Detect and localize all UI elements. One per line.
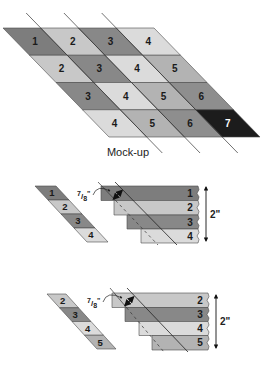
staggered-strip: [112, 293, 209, 308]
mockup-cell-number: 4: [123, 91, 129, 102]
strip-number: 2: [187, 202, 193, 213]
mockup-cell-number: 4: [146, 36, 152, 47]
mockup-caption: Mock-up: [107, 146, 149, 158]
strip-number: 3: [187, 217, 193, 228]
strip-number: 3: [73, 309, 78, 320]
height-label: 2": [220, 316, 231, 327]
strip-number: 5: [98, 337, 104, 348]
strip-number: 5: [197, 337, 203, 348]
quilt-strip-diagram: 1234234534564567 Mock-up 123412347/8"2" …: [0, 0, 280, 370]
mockup-cell-number: 4: [134, 63, 140, 74]
offset-label-unit: ": [87, 190, 90, 197]
offset-label-unit: ": [97, 297, 100, 304]
strip-number: 4: [187, 231, 193, 242]
mockup-cell-number: 2: [59, 63, 65, 74]
strip-number: 4: [88, 229, 94, 240]
mockup-cell-number: 6: [187, 118, 193, 129]
mockup-cell-number: 5: [172, 63, 178, 74]
mockup-cell-number: 3: [108, 36, 114, 47]
strip-number: 1: [187, 188, 193, 199]
strip-number: 1: [49, 187, 55, 198]
mockup-cell-number: 5: [150, 118, 156, 129]
mockup-cell-number: 3: [85, 91, 91, 102]
mockup-cell-number: 1: [32, 36, 38, 47]
strip-number: 4: [197, 323, 203, 334]
height-label: 2": [210, 209, 221, 220]
diagram-svg: 1234234534564567 Mock-up 123412347/8"2" …: [0, 0, 280, 370]
offset-label: 7/8": [77, 190, 90, 202]
strip-number: 2: [60, 295, 65, 306]
mockup-cell-number: 7: [225, 118, 231, 129]
mockup-grid: 1234234534564567: [3, 13, 260, 153]
mockup-cell-number: 3: [97, 63, 103, 74]
mockup-cell-number: 2: [70, 36, 76, 47]
strip-number: 2: [62, 201, 67, 212]
strip-number: 3: [197, 309, 203, 320]
step2-strip-sets: 234523457/8"2": [47, 288, 231, 352]
mockup-cell-number: 6: [199, 91, 205, 102]
step1-strip-sets: 123412347/8"2": [35, 182, 221, 245]
staggered-strip: [101, 186, 199, 201]
strip-number: 4: [85, 323, 91, 334]
mockup-cell-number: 4: [112, 118, 118, 129]
offset-label: 7/8": [87, 297, 100, 309]
strip-number: 3: [75, 215, 80, 226]
strip-number: 2: [197, 295, 203, 306]
mockup-cell-number: 5: [161, 91, 167, 102]
